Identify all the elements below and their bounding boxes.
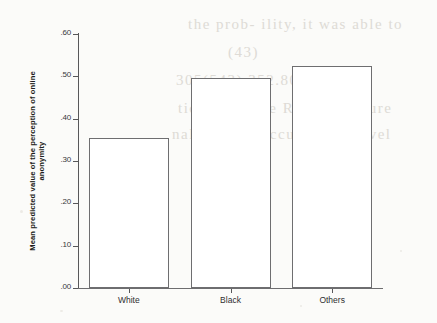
bar-others	[292, 66, 372, 288]
y-axis-tick: .50	[73, 76, 78, 77]
scan-speck	[60, 310, 63, 312]
y-axis-tick: .10	[73, 246, 78, 247]
scan-speck	[20, 210, 23, 213]
y-axis-tick-label: .30	[60, 155, 71, 164]
x-axis-label-black: Black	[220, 295, 241, 305]
bar-black	[191, 78, 271, 288]
y-axis-title-line-2: anonymity	[37, 33, 46, 289]
y-axis-line	[78, 33, 79, 289]
x-axis-tick	[332, 289, 333, 293]
y-axis-tick-label: .60	[60, 28, 71, 37]
y-axis-tick: .60	[73, 34, 78, 35]
y-axis-tick: .40	[73, 119, 78, 120]
scan-speck	[300, 305, 302, 307]
y-axis-tick-label: .20	[60, 197, 71, 206]
bar-white	[89, 138, 169, 288]
y-axis-tick-label: .40	[60, 113, 71, 122]
x-axis-tick	[231, 289, 232, 293]
x-axis-label-white: White	[118, 295, 140, 305]
y-axis-tick: .00	[73, 288, 78, 289]
y-axis-tick-label: .50	[60, 70, 71, 79]
scan-speck	[400, 250, 402, 252]
y-axis-tick-label: .10	[60, 240, 71, 249]
chart-figure: the prob- ility, it was able to (43) 305…	[0, 0, 437, 323]
y-axis-title: Mean predicted value of the perception o…	[26, 33, 48, 289]
plot-area: .00.10.20.30.40.50.60 WhiteBlackOthers	[78, 33, 383, 289]
y-axis-tick: .30	[73, 161, 78, 162]
y-axis-title-line-1: Mean predicted value of the perception o…	[28, 33, 37, 289]
x-axis-tick	[129, 289, 130, 293]
ghost-text-line-1: the prob- ility, it was able to	[188, 16, 403, 33]
y-axis-tick-label: .00	[60, 282, 71, 291]
x-axis-label-others: Others	[319, 295, 345, 305]
y-axis-tick: .20	[73, 203, 78, 204]
